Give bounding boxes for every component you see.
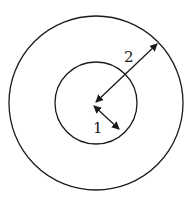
label-2: 2	[124, 48, 134, 66]
label-1: 1	[93, 119, 103, 137]
diagram-svg: 2 1	[0, 0, 195, 206]
concentric-circles-diagram: 2 1	[0, 0, 195, 206]
outer-circle	[9, 16, 183, 190]
